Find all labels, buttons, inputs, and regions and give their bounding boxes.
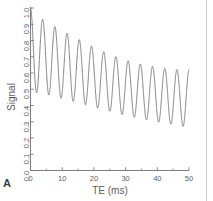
panel-edge-rule (206, 0, 207, 201)
signal-curve (31, 8, 190, 126)
signal-decay-plot (0, 0, 213, 201)
axes (31, 7, 190, 171)
figure-panel-a: A Signal TE (ms) 0.00.10.20.30.40.50.60.… (0, 0, 213, 201)
